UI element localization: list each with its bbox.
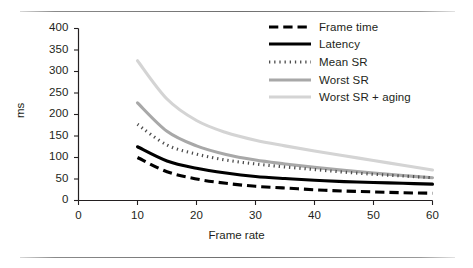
legend-swatch-icon (268, 56, 312, 68)
y-tick-label: 100 (35, 150, 69, 162)
x-tick-label: 40 (300, 209, 330, 221)
legend-label: Latency (319, 38, 360, 50)
y-tick-label: 200 (35, 107, 69, 119)
legend-label: Frame time (319, 21, 378, 33)
y-tick-label: 300 (35, 64, 69, 76)
legend-swatch-icon (268, 91, 312, 103)
legend-swatch-icon (268, 38, 312, 50)
series-line-mean-sr (138, 124, 433, 177)
y-tick-label: 250 (35, 86, 69, 98)
y-axis-title: ms (14, 103, 26, 118)
legend-item[interactable]: Worst SR + aging (268, 88, 458, 106)
legend-item[interactable]: Worst SR (268, 71, 458, 89)
x-tick-label: 30 (241, 209, 271, 221)
x-tick-label: 20 (182, 209, 212, 221)
x-tick-label: 60 (418, 209, 448, 221)
x-tick-label: 10 (123, 209, 153, 221)
y-tick-label: 50 (35, 172, 69, 184)
x-tick-label: 0 (64, 209, 94, 221)
legend-item[interactable]: Latency (268, 36, 458, 54)
legend-label: Worst SR (319, 74, 369, 86)
legend-item[interactable]: Mean SR (268, 53, 458, 71)
y-tick-label: 0 (35, 193, 69, 205)
x-tick-label: 50 (359, 209, 389, 221)
x-axis-title: Frame rate (0, 229, 473, 241)
y-tick-label: 400 (35, 21, 69, 33)
legend-swatch-icon (268, 21, 312, 33)
legend-swatch-icon (268, 74, 312, 86)
figure-container: ms Frame rate 050100150200250300350400 0… (0, 0, 473, 268)
legend-label: Mean SR (319, 56, 368, 68)
y-tick-label: 350 (35, 43, 69, 55)
legend-label: Worst SR + aging (319, 91, 411, 103)
legend-item[interactable]: Frame time (268, 18, 458, 36)
y-tick-label: 150 (35, 129, 69, 141)
chart-legend: Frame timeLatencyMean SRWorst SRWorst SR… (268, 18, 458, 106)
